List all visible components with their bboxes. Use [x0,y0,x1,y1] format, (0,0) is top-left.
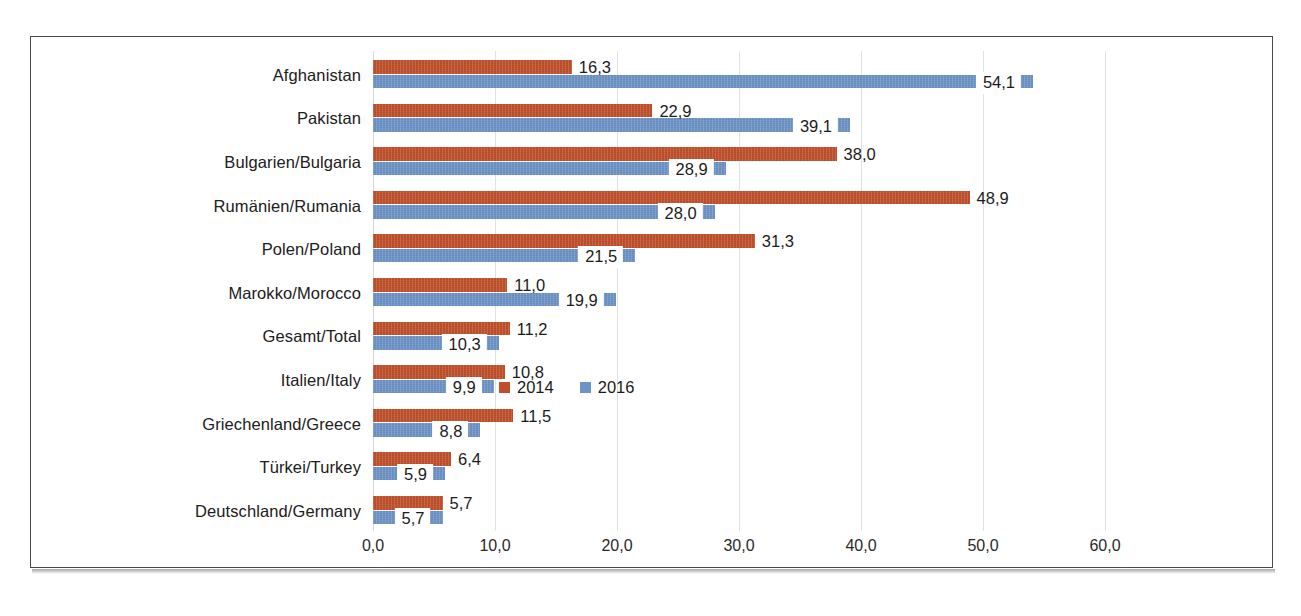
caption-strip [0,600,1301,616]
bar-row: Griechenland/Greece11,58,8 [373,402,1273,446]
x-tick-label: 50,0 [967,537,998,555]
bar-row: Türkei/Turkey6,45,9 [373,445,1273,489]
bar-row: Bulgarien/Bulgaria38,028,9 [373,140,1273,184]
bar-rows: Afghanistan16,354,1Pakistan22,939,1Bulga… [373,51,1273,531]
x-tick-label: 60,0 [1089,537,1120,555]
value-label-2014: 22,9 [652,103,691,120]
category-label: Pakistan [297,109,361,128]
category-label: Italien/Italy [281,370,361,389]
legend-item-2014: 2014 [499,378,554,397]
bar-2014 [373,147,837,161]
value-label-2016: 5,9 [397,464,433,486]
bar-2014 [373,365,505,379]
value-label-2016: 28,9 [668,159,713,181]
x-tick-label: 20,0 [601,537,632,555]
value-label-2014: 16,3 [572,59,611,76]
category-label: Gesamt/Total [263,327,361,346]
plot-area: Afghanistan16,354,1Pakistan22,939,1Bulga… [373,51,1273,531]
value-label-2016: 54,1 [976,72,1021,94]
scan-shadow [32,569,1275,574]
x-axis: 0,010,020,030,040,050,060,0 [373,537,1273,565]
x-tick-label: 30,0 [723,537,754,555]
bar-row: Gesamt/Total11,210,3 [373,315,1273,359]
chart-legend: 20142016 [499,378,634,397]
value-label-2014: 11,0 [507,277,545,294]
category-label: Bulgarien/Bulgaria [224,152,361,171]
value-label-2014: 48,9 [970,190,1009,207]
bar-row: Rumänien/Rumania48,928,0 [373,184,1273,228]
value-label-2014: 5,7 [443,495,473,512]
bar-row: Marokko/Morocco11,019,9 [373,271,1273,315]
chart-frame: Afghanistan16,354,1Pakistan22,939,1Bulga… [30,36,1273,568]
legend-label: 2014 [517,378,554,397]
category-label: Afghanistan [273,65,361,84]
category-label: Marokko/Morocco [228,283,361,302]
value-label-2016: 21,5 [578,246,623,268]
bar-2014 [373,234,755,248]
legend-swatch-icon [499,382,510,393]
x-tick-label: 40,0 [845,537,876,555]
legend-label: 2016 [598,378,635,397]
bar-2016 [373,118,850,132]
value-label-2014: 11,5 [513,408,551,425]
value-label-2014: 6,4 [451,451,481,468]
category-label: Rumänien/Rumania [214,196,361,215]
value-label-2014: 11,2 [510,321,548,338]
bar-2016 [373,75,1033,89]
bar-2014 [373,278,507,292]
category-label: Polen/Poland [262,240,361,259]
value-label-2016: 19,9 [559,290,604,312]
value-label-2016: 5,7 [395,508,431,530]
bar-row: Polen/Poland31,321,5 [373,227,1273,271]
category-label: Griechenland/Greece [202,414,361,433]
bar-2014 [373,60,572,74]
bar-row: Deutschland/Germany5,75,7 [373,489,1273,533]
value-label-2016: 39,1 [793,116,838,138]
value-label-2016: 8,8 [432,421,468,443]
category-label: Deutschland/Germany [195,501,361,520]
value-label-2016: 9,9 [446,377,482,399]
value-label-2014: 38,0 [837,146,876,163]
bar-row: Afghanistan16,354,1 [373,53,1273,97]
x-tick-label: 0,0 [362,537,384,555]
bar-2014 [373,104,652,118]
legend-item-2016: 2016 [580,378,635,397]
x-tick-label: 10,0 [479,537,510,555]
value-label-2016: 10,3 [442,334,487,356]
legend-swatch-icon [580,382,591,393]
bar-row: Pakistan22,939,1 [373,97,1273,141]
value-label-2016: 28,0 [657,203,702,225]
value-label-2014: 31,3 [755,233,794,250]
category-label: Türkei/Turkey [259,458,361,477]
